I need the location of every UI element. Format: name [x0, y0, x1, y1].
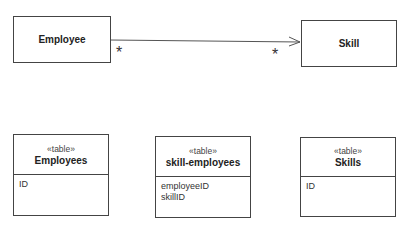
- table-header: «table» skill-employees: [156, 137, 250, 177]
- table-header: «table» Employees: [14, 135, 108, 175]
- stereotype-label: «table»: [189, 146, 217, 156]
- column-item: ID: [306, 181, 390, 192]
- class-skill[interactable]: Skill: [301, 20, 397, 67]
- table-columns: employeeID skillID: [156, 177, 250, 207]
- table-columns: ID: [301, 177, 395, 196]
- class-employee-name: Employee: [38, 34, 85, 45]
- source-multiplicity: *: [116, 45, 122, 61]
- table-columns: ID: [14, 175, 108, 194]
- class-skill-name: Skill: [339, 38, 360, 49]
- stereotype-label: «table»: [334, 146, 362, 156]
- table-name: skill-employees: [166, 157, 240, 168]
- table-name: Employees: [35, 155, 88, 166]
- table-header: «table» Skills: [301, 138, 395, 177]
- table-skills[interactable]: «table» Skills ID: [300, 137, 396, 217]
- column-item: ID: [19, 179, 103, 190]
- target-multiplicity: *: [272, 47, 278, 63]
- table-employees[interactable]: «table» Employees ID: [13, 134, 109, 216]
- table-skill-employees[interactable]: «table» skill-employees employeeID skill…: [155, 136, 251, 218]
- column-item: employeeID: [161, 181, 245, 192]
- column-item: skillID: [161, 192, 245, 203]
- table-name: Skills: [335, 157, 361, 168]
- stereotype-label: «table»: [47, 144, 75, 154]
- class-employee[interactable]: Employee: [13, 16, 111, 63]
